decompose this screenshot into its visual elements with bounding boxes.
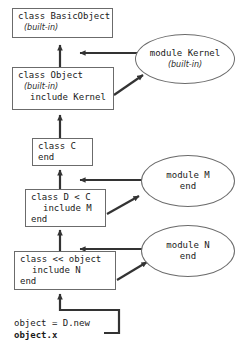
node-modulem-line-0: module M [166, 170, 209, 181]
node-modulem-line-1: end [180, 181, 196, 192]
node-class-basicobject[interactable]: class BasicObject (built-in) [12, 8, 113, 38]
node-basicobject-line-0: class BasicObject [18, 11, 108, 22]
node-kernel-line-1: (built-in) [168, 59, 202, 70]
node-class-c[interactable]: class C end [32, 138, 93, 166]
node-object-line-2: include Kernel [18, 92, 109, 103]
node-basicobject-line-1: (built-in) [18, 22, 108, 33]
edge-classd-to-modulem [107, 196, 139, 214]
node-kernel-line-0: module Kernel [150, 48, 220, 59]
node-classc-line-1: end [38, 152, 88, 163]
node-module-n[interactable]: module N end [141, 225, 235, 277]
node-module-m[interactable]: module M end [141, 155, 235, 207]
edge-singleton-to-modulen [117, 262, 147, 280]
usage-line-0: object = D.new [14, 317, 124, 329]
node-modulen-line-1: end [180, 251, 196, 262]
node-classc-line-0: class C [38, 141, 88, 152]
node-object-line-1: (built-in) [18, 81, 109, 92]
node-classd-line-1: include M [31, 203, 101, 214]
node-singleton-line-0: class << object [20, 254, 111, 265]
node-singleton-class[interactable]: class << object include N end [14, 251, 116, 290]
diagram-canvas: class BasicObject (built-in) class Objec… [0, 0, 237, 347]
usage-line-1: object.x [14, 329, 124, 341]
node-modulen-line-0: module N [166, 240, 209, 251]
edge-object-to-kernel [114, 75, 143, 95]
node-usage-code[interactable]: object = D.new object.x [14, 317, 124, 345]
node-module-kernel[interactable]: module Kernel (built-in) [135, 34, 235, 84]
node-classd-line-2: end [31, 214, 101, 225]
node-singleton-line-1: include N [20, 265, 111, 276]
node-object-line-0: class Object [18, 70, 109, 81]
node-class-object[interactable]: class Object (built-in) include Kernel [12, 67, 114, 110]
node-classd-line-0: class D < C [31, 192, 101, 203]
node-class-d[interactable]: class D < C include M end [25, 189, 106, 227]
node-singleton-line-2: end [20, 276, 111, 287]
